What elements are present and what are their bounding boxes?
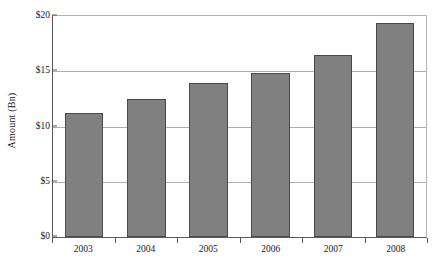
x-axis-tick-mark — [240, 238, 241, 243]
bar-slot — [240, 16, 302, 237]
bar-slot — [364, 16, 426, 237]
y-axis-tick-mark — [52, 236, 57, 237]
x-axis-tick-mark — [177, 238, 178, 243]
y-axis-tick-label: $15 — [22, 65, 50, 75]
bar-slot — [53, 16, 115, 237]
bar-2007[interactable] — [314, 55, 353, 237]
x-axis-tick-label: 2005 — [177, 244, 240, 260]
y-axis-tick-label: $5 — [22, 176, 50, 186]
bar-2008[interactable] — [376, 23, 415, 237]
bar-slot — [177, 16, 239, 237]
y-axis-tick-mark — [52, 70, 57, 71]
x-axis-tick-mark — [365, 238, 366, 243]
x-axis-tick-label: 2007 — [302, 244, 365, 260]
y-axis-title: Amount (Bn) — [0, 0, 24, 240]
x-axis-tick-label: 2004 — [115, 244, 178, 260]
y-axis-tick-mark — [52, 15, 57, 16]
bar-2003[interactable] — [65, 113, 104, 237]
bar-slot — [115, 16, 177, 237]
y-axis-tick-mark — [52, 180, 57, 181]
x-axis-tick-label: 2008 — [365, 244, 428, 260]
x-axis-tick-mark — [115, 238, 116, 243]
bar-2004[interactable] — [127, 99, 166, 237]
y-axis-tick-label-group: $0$5$10$15$20 — [22, 8, 50, 246]
bar-slot — [302, 16, 364, 237]
bar-2005[interactable] — [189, 83, 228, 237]
y-axis-tick-mark — [52, 125, 57, 126]
plot-area — [52, 15, 427, 238]
x-axis-tick-mark — [427, 238, 428, 243]
x-axis-tick-mark — [302, 238, 303, 243]
y-axis-tick-label: $20 — [22, 10, 50, 20]
x-axis-tick-marks — [52, 238, 427, 243]
x-axis-tick-label: 2003 — [52, 244, 115, 260]
y-axis-tick-label: $10 — [22, 121, 50, 131]
x-axis-tick-label: 2006 — [240, 244, 303, 260]
y-axis-tick-label: $0 — [22, 231, 50, 241]
bar-chart-figure: Amount (Bn) $0$5$10$15$20 20032004200520… — [0, 0, 435, 264]
bar-2006[interactable] — [251, 73, 290, 237]
y-axis-title-label: Amount (Bn) — [7, 92, 18, 148]
bar-series — [53, 16, 426, 237]
x-axis-tick-mark — [52, 238, 53, 243]
x-axis-tick-label-group: 200320042005200620072008 — [52, 244, 427, 260]
